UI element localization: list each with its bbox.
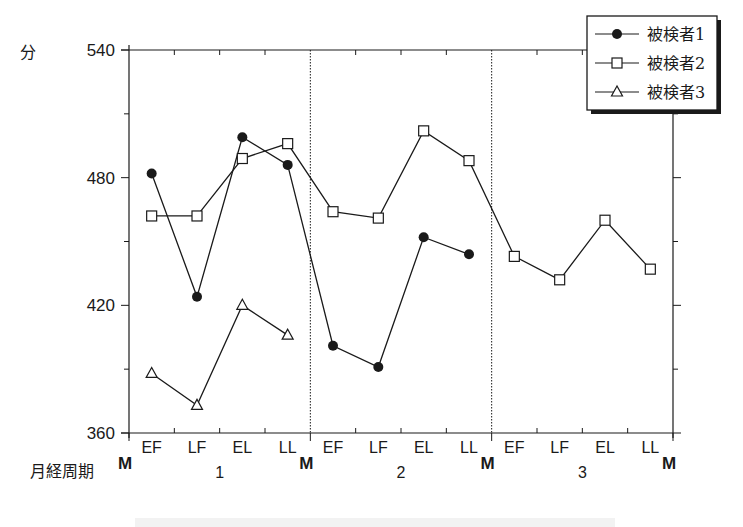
marker-open-square <box>283 139 293 149</box>
cycle-label: 1 <box>215 464 224 481</box>
marker-open-square <box>373 213 383 223</box>
marker-open-triangle <box>146 367 157 377</box>
y-tick-label: 360 <box>87 424 115 443</box>
cycle-label: 3 <box>578 464 587 481</box>
legend-label: 被検者3 <box>647 83 705 102</box>
menses-label: M <box>118 454 132 473</box>
phase-label: LF <box>188 439 207 456</box>
marker-filled-circle <box>464 249 474 259</box>
phase-label: EF <box>504 439 525 456</box>
phase-label: LL <box>460 439 478 456</box>
marker-filled-circle <box>192 292 202 302</box>
marker-filled-circle <box>283 160 293 170</box>
marker-filled-circle <box>419 232 429 242</box>
phase-label: EL <box>233 439 253 456</box>
series-line <box>152 305 288 405</box>
marker-open-square <box>192 211 202 221</box>
phase-label: LL <box>641 439 659 456</box>
marker-filled-circle <box>612 29 622 39</box>
y-tick-label: 480 <box>87 169 115 188</box>
phase-label: LF <box>369 439 388 456</box>
axis-labels: 分 月経周期 <box>20 43 94 481</box>
menses-label: M <box>481 454 495 473</box>
legend: 被検者1被検者2被検者3 <box>587 16 721 114</box>
chart: 360420480540MEFLFELLL1MEFLFELLL2MEFLFELL… <box>0 0 743 527</box>
phase-label: EL <box>414 439 434 456</box>
figure-caption-clipped <box>135 518 615 527</box>
marker-open-square <box>645 264 655 274</box>
marker-open-triangle <box>192 399 203 409</box>
phase-label: LF <box>550 439 569 456</box>
marker-open-square <box>147 211 157 221</box>
phase-label: EL <box>595 439 615 456</box>
marker-open-square <box>328 207 338 217</box>
cycle-label: 2 <box>397 464 406 481</box>
series-line <box>152 131 651 280</box>
marker-filled-circle <box>373 362 383 372</box>
marker-open-triangle <box>282 329 293 339</box>
menses-label: M <box>662 454 676 473</box>
marker-open-square <box>612 58 622 68</box>
y-tick-label: 420 <box>87 296 115 315</box>
legend-label: 被検者2 <box>647 54 705 73</box>
marker-open-square <box>237 154 247 164</box>
menses-label: M <box>299 454 313 473</box>
y-tick-label: 540 <box>87 41 115 60</box>
y-unit-label: 分 <box>20 43 36 62</box>
series-3 <box>146 299 293 409</box>
marker-filled-circle <box>147 168 157 178</box>
marker-open-square <box>555 275 565 285</box>
marker-filled-circle <box>328 341 338 351</box>
phase-label: EF <box>141 439 162 456</box>
marker-filled-circle <box>237 132 247 142</box>
x-axis-title: 月経周期 <box>30 462 94 481</box>
phase-label: LL <box>279 439 297 456</box>
phase-label: EF <box>323 439 344 456</box>
marker-open-square <box>419 126 429 136</box>
marker-open-square <box>464 156 474 166</box>
legend-label: 被検者1 <box>647 25 705 44</box>
marker-open-square <box>509 251 519 261</box>
marker-open-square <box>600 215 610 225</box>
marker-open-triangle <box>237 299 248 309</box>
series-layer <box>146 126 655 409</box>
